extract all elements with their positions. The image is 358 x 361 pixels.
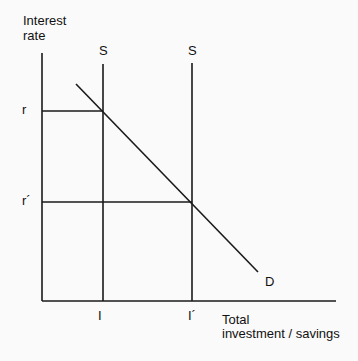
supply-label-initial: S [99, 44, 108, 58]
x-axis-label-line1: Total [222, 313, 249, 327]
rate-r-prime-label: r´ [22, 194, 31, 208]
demand-label: D [265, 275, 274, 289]
diagram-canvas [0, 0, 358, 361]
y-axis-label-line2: rate [23, 29, 45, 43]
quantity-i-prime-label: I´ [188, 309, 196, 323]
quantity-i-label: I [98, 309, 102, 323]
x-axis-label-line2: investment / savings [222, 327, 340, 341]
supply-label-shifted: S [188, 44, 197, 58]
rate-r-label: r [22, 103, 26, 117]
y-axis-label-line1: Interest [23, 14, 66, 28]
